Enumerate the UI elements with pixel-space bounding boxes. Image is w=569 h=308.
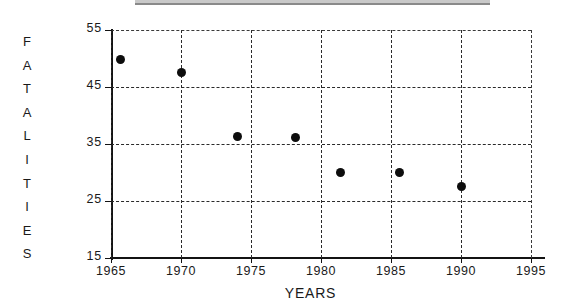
y-axis-title-letter: A — [14, 54, 40, 78]
y-axis-tick — [105, 144, 112, 145]
y-gridline — [111, 144, 531, 145]
y-axis-title-letter: S — [14, 242, 40, 266]
data-point — [291, 133, 300, 142]
y-axis-title-letter: T — [14, 77, 40, 101]
x-axis-tick-label: 1975 — [221, 264, 281, 278]
top-divider-rule — [135, 3, 490, 5]
y-axis-tick-label: 35 — [68, 135, 102, 149]
data-point — [177, 68, 186, 77]
x-axis-tick-label: 1995 — [501, 264, 561, 278]
plot-area — [111, 30, 531, 258]
x-axis-tick-label: 1985 — [361, 264, 421, 278]
y-axis-title-letter: E — [14, 219, 40, 243]
y-axis-tick-label: 55 — [68, 21, 102, 35]
x-axis-title: YEARS — [0, 285, 569, 301]
y-axis-title-letter: I — [14, 195, 40, 219]
x-axis-tick-label: 1965 — [81, 264, 141, 278]
y-axis-tick-label: 15 — [68, 249, 102, 263]
y-axis-tick-label: 25 — [68, 192, 102, 206]
y-axis-title-letter: L — [14, 124, 40, 148]
y-axis-title-letter: T — [14, 172, 40, 196]
y-gridline — [111, 201, 531, 202]
x-axis-tick — [461, 258, 462, 263]
x-axis-tick-label: 1970 — [151, 264, 211, 278]
y-axis-title-letter: I — [14, 148, 40, 172]
y-axis-tick — [105, 258, 112, 259]
y-gridline — [111, 30, 531, 31]
data-point — [395, 168, 404, 177]
data-point — [336, 168, 345, 177]
y-axis-tick — [105, 30, 112, 31]
data-point — [233, 132, 242, 141]
x-axis-tick — [181, 258, 182, 263]
data-point — [116, 55, 125, 64]
data-point — [457, 182, 466, 191]
y-axis-title: FATALITIES — [14, 30, 40, 266]
y-gridline — [111, 87, 531, 88]
y-axis-tick-label: 45 — [68, 78, 102, 92]
y-axis-tick — [105, 201, 112, 202]
x-axis-title-label: YEARS — [285, 285, 336, 301]
y-axis-title-letter: A — [14, 101, 40, 125]
x-gridline — [531, 30, 532, 258]
x-axis-tick — [531, 258, 532, 263]
x-axis-tick-label: 1990 — [431, 264, 491, 278]
x-axis-tick — [251, 258, 252, 263]
y-axis-tick — [105, 87, 112, 88]
y-axis-title-letter: F — [14, 30, 40, 54]
x-axis-tick — [321, 258, 322, 263]
x-axis-tick-label: 1980 — [291, 264, 351, 278]
x-axis-tick — [391, 258, 392, 263]
